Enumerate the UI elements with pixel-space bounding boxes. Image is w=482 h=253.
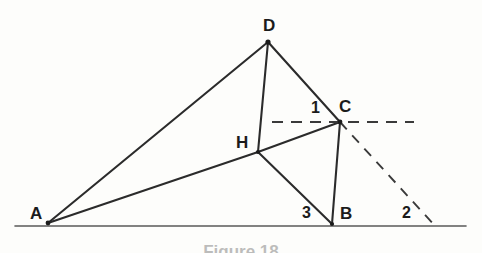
vertex-dot-c <box>338 120 343 125</box>
vertex-label-h: H <box>236 134 248 151</box>
segment-a-h <box>48 152 258 223</box>
vertex-label-b: B <box>340 205 352 222</box>
segment-d-h <box>258 42 268 152</box>
angle-label-2: 2 <box>402 205 411 221</box>
vertex-label-d: D <box>263 17 275 34</box>
vertex-dot-b <box>330 222 334 226</box>
segment-d-c <box>268 42 340 122</box>
vertex-label-a: A <box>30 205 42 222</box>
segment-c-b <box>332 122 340 224</box>
vertex-dot-a <box>46 221 51 226</box>
angle-label-3: 3 <box>302 205 311 221</box>
segment-h-c <box>258 122 340 152</box>
dashed-segment-c-to-ground <box>340 122 437 228</box>
vertex-dot-h <box>256 150 260 154</box>
angle-label-1: 1 <box>311 100 320 116</box>
vertex-label-c: C <box>339 98 351 115</box>
vertex-dot-d <box>265 39 270 44</box>
segment-h-b <box>258 152 332 224</box>
figure-diagram: D C H A B 1 2 3 Figure 18 <box>0 0 482 253</box>
segment-a-d <box>48 42 268 223</box>
figure-caption: Figure 18 <box>0 243 482 253</box>
vertex-dots-group <box>46 39 343 226</box>
solid-segments-group <box>48 42 340 224</box>
